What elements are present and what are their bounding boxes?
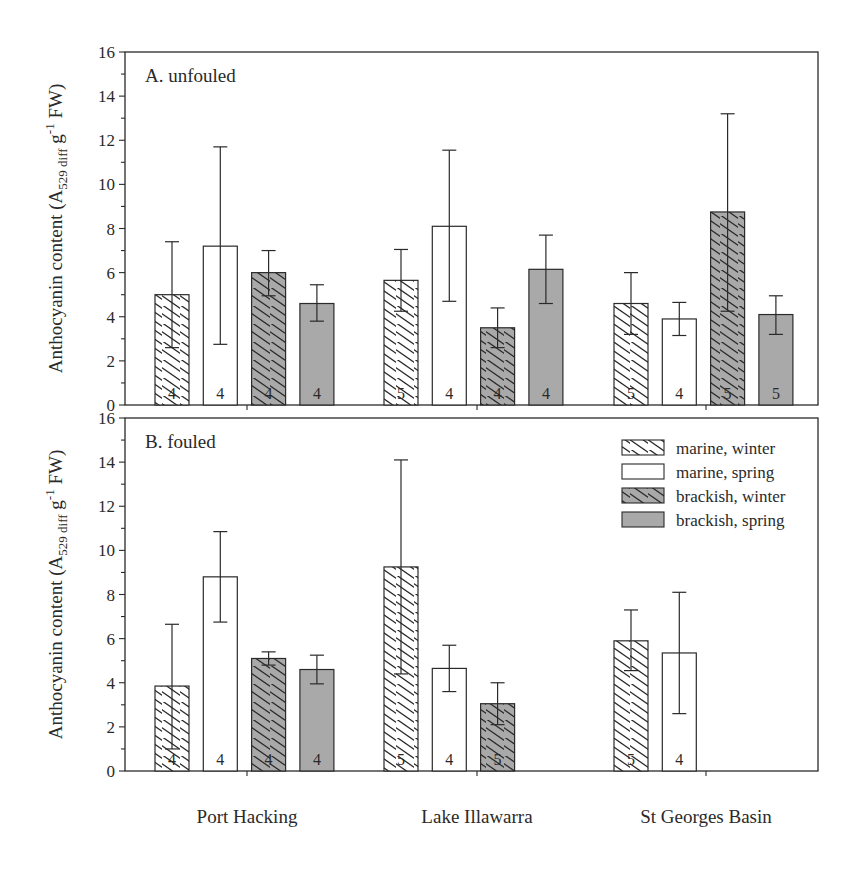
y-tick-label: 14 bbox=[98, 87, 116, 106]
y-tick-label: 8 bbox=[107, 586, 116, 605]
sample-size-label: 4 bbox=[265, 385, 273, 402]
y-tick-label: 6 bbox=[107, 630, 116, 649]
y-tick-label: 6 bbox=[107, 264, 116, 283]
y-tick-label: 10 bbox=[98, 175, 115, 194]
sample-size-label: 4 bbox=[675, 385, 683, 402]
x-category-label: Port Hacking bbox=[197, 806, 298, 827]
y-tick-label: 4 bbox=[107, 308, 116, 327]
y-tick-label: 8 bbox=[107, 220, 116, 239]
x-axis-category-labels: Port HackingLake IllawarraSt Georges Bas… bbox=[197, 806, 773, 827]
sample-size-label: 5 bbox=[772, 385, 780, 402]
sample-size-label: 4 bbox=[542, 385, 550, 402]
panel-title: A. unfouled bbox=[145, 65, 236, 86]
sample-size-label: 4 bbox=[445, 385, 453, 402]
sample-size-label: 4 bbox=[216, 751, 224, 768]
sample-size-label: 5 bbox=[627, 751, 635, 768]
y-tick-label: 16 bbox=[98, 409, 115, 428]
y-tick-label: 4 bbox=[107, 674, 116, 693]
sample-size-label: 4 bbox=[313, 751, 321, 768]
legend-swatch bbox=[622, 488, 664, 503]
sample-size-label: 4 bbox=[445, 751, 453, 768]
panel-title: B. fouled bbox=[145, 431, 216, 452]
y-axis-label: Anthocyanin content (A529 diff g-1 FW) bbox=[42, 450, 70, 740]
legend-label: marine, winter bbox=[676, 439, 775, 458]
sample-size-label: 5 bbox=[397, 385, 405, 402]
sample-size-label: 4 bbox=[265, 751, 273, 768]
y-tick-label: 14 bbox=[98, 453, 116, 472]
sample-size-label: 5 bbox=[397, 751, 405, 768]
y-tick-label: 12 bbox=[98, 131, 115, 150]
sample-size-label: 5 bbox=[724, 385, 732, 402]
legend-label: marine, spring bbox=[676, 463, 775, 482]
sample-size-label: 4 bbox=[216, 385, 224, 402]
sample-size-label: 4 bbox=[313, 385, 321, 402]
legend-swatch bbox=[622, 464, 664, 479]
bar-chart: 0246810121416A. unfouledAnthocyanin cont… bbox=[0, 0, 862, 876]
sample-size-label: 4 bbox=[168, 385, 176, 402]
legend: marine, wintermarine, springbrackish, wi… bbox=[622, 439, 786, 530]
y-tick-label: 16 bbox=[98, 43, 115, 62]
legend-swatch bbox=[622, 440, 664, 455]
x-category-label: Lake Illawarra bbox=[421, 806, 533, 827]
y-tick-label: 10 bbox=[98, 541, 115, 560]
y-tick-label: 2 bbox=[107, 718, 116, 737]
y-tick-label: 2 bbox=[107, 352, 116, 371]
legend-swatch bbox=[622, 512, 664, 527]
legend-label: brackish, spring bbox=[676, 511, 785, 530]
sample-size-label: 4 bbox=[494, 385, 502, 402]
x-category-label: St Georges Basin bbox=[640, 806, 772, 827]
y-tick-label: 12 bbox=[98, 497, 115, 516]
panel-unfouled: 0246810121416A. unfouledAnthocyanin cont… bbox=[42, 43, 818, 415]
sample-size-label: 5 bbox=[494, 751, 502, 768]
sample-size-label: 5 bbox=[627, 385, 635, 402]
sample-size-label: 4 bbox=[168, 751, 176, 768]
y-axis-label: Anthocyanin content (A529 diff g-1 FW) bbox=[42, 84, 70, 374]
legend-label: brackish, winter bbox=[676, 487, 786, 506]
sample-size-label: 4 bbox=[675, 751, 683, 768]
y-tick-label: 0 bbox=[107, 762, 116, 781]
